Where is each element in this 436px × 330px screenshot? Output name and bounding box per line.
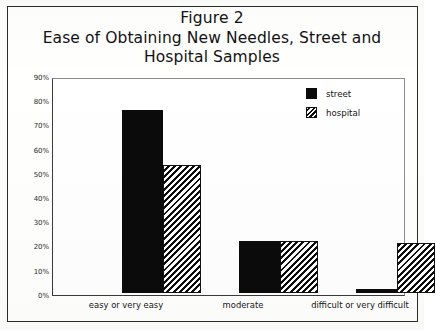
legend-item-hospital[interactable]: hospital — [306, 105, 360, 120]
x-axis-label-moderate: moderate — [223, 300, 264, 310]
bar-street-easy-or-very-easy[interactable] — [122, 110, 163, 293]
bar-street-moderate[interactable] — [239, 241, 280, 293]
x-axis-label-easy-or-very-easy: easy or very easy — [89, 300, 163, 310]
x-axis-label-difficult-or-very-difficult: difficult or very difficult — [311, 300, 409, 310]
figure-title-line-2: Ease of Obtaining New Needles, Street an… — [14, 29, 410, 49]
y-axis-tick-70: 70% — [16, 122, 49, 130]
y-axis-tick-20: 20% — [16, 243, 49, 251]
bar-street-difficult-or-very-difficult[interactable] — [356, 289, 397, 294]
y-axis-tick-60: 60% — [16, 147, 49, 155]
diagonal-hatch-square-icon — [306, 107, 317, 118]
solid-black-square-icon — [306, 88, 317, 99]
bar-hospital-easy-or-very-easy[interactable] — [163, 165, 201, 294]
y-axis-tick-80: 80% — [16, 98, 49, 106]
y-axis-tick-30: 30% — [16, 219, 49, 227]
legend-label-street: street — [326, 89, 351, 99]
y-axis-tick-90: 90% — [16, 74, 49, 82]
figure-title-line-3: Hospital Samples — [14, 48, 410, 68]
figure-title: Figure 2 Ease of Obtaining New Needles, … — [14, 9, 410, 68]
legend-item-street[interactable]: street — [306, 86, 360, 101]
figure-title-line-1: Figure 2 — [14, 9, 410, 29]
bar-group-easy-or-very-easy — [122, 80, 202, 293]
y-axis-tick-0: 0% — [16, 292, 49, 300]
chart-legend: street hospital — [306, 86, 360, 124]
bar-hospital-moderate[interactable] — [280, 241, 318, 293]
chart-plot-area: 90% 80% 70% 60% 50% 40% 30% 20% 10% 0% — [16, 78, 408, 318]
legend-label-hospital: hospital — [326, 108, 360, 118]
bar-hospital-difficult-or-very-difficult[interactable] — [397, 243, 435, 293]
y-axis-tick-40: 40% — [16, 195, 49, 203]
y-axis-tick-10: 10% — [16, 268, 49, 276]
y-axis-tick-50: 50% — [16, 171, 49, 179]
bar-group-difficult-or-very-difficult — [356, 80, 436, 293]
